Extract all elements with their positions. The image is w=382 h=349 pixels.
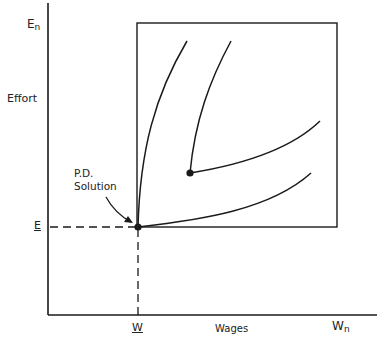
y-axis-marked-value: E	[34, 220, 41, 231]
curve-upper-left	[138, 41, 187, 227]
curve-lower-right	[138, 173, 311, 227]
curve-inner-upper	[190, 41, 231, 173]
pd-solution-label-line1: P.D.	[74, 168, 93, 179]
diagram-canvas	[0, 0, 382, 349]
y-axis-top-label: En	[27, 18, 40, 32]
inner-point	[186, 169, 193, 176]
y-axis-title: Effort	[7, 93, 37, 104]
pd-solution-point	[134, 223, 141, 230]
x-axis-right-label: Wn	[332, 320, 350, 334]
x-axis-marked-value: W	[132, 322, 143, 333]
curve-inner-right	[190, 121, 320, 173]
x-axis-title: Wages	[215, 324, 248, 334]
feasible-region-box	[137, 23, 337, 227]
pd-solution-label-line2: Solution	[74, 181, 117, 192]
arrow-head-icon	[124, 216, 133, 223]
